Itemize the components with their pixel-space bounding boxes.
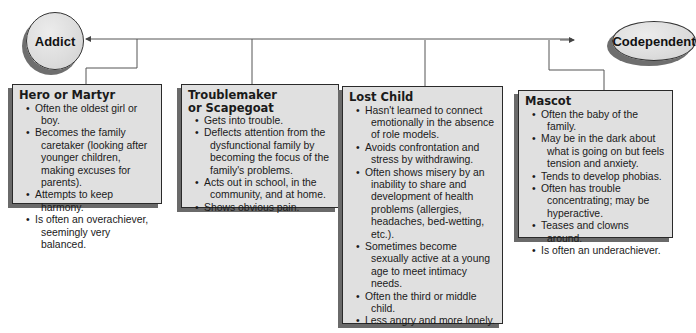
trait-item: Avoids confrontation and stress by withd…: [349, 142, 496, 167]
role-traits: Gets into trouble. Deflects attention fr…: [188, 115, 332, 214]
trait-item: Sometimes become sexually active at a yo…: [349, 241, 496, 291]
trait-item: Is often an underachiever.: [525, 245, 666, 257]
trait-item: Less angry and more lonely.: [349, 315, 496, 327]
role-title: Troublemaker or Scapegoat: [188, 89, 288, 114]
trait-item: Often the baby of the family.: [525, 109, 666, 134]
role-traits: Hasn't learned to connect emotionally in…: [349, 105, 496, 328]
trait-item: Attempts to keep harmony.: [19, 189, 155, 214]
trait-item: Deflects attention from the dysfunctiona…: [188, 127, 332, 177]
trait-item: Teases and clowns around.: [525, 220, 666, 245]
trait-item: Tends to develop phobias.: [525, 171, 666, 183]
trait-item: Hasn't learned to connect emotionally in…: [349, 105, 496, 142]
role-traits: Often the baby of the family. May be in …: [525, 109, 666, 258]
trait-item: May be in the dark about what is going o…: [525, 133, 666, 170]
role-box-hero: Hero or Martyr Often the oldest girl or …: [12, 84, 162, 204]
addict-node: Addict: [26, 12, 84, 70]
codependent-label: Codependent: [612, 34, 695, 49]
role-title: Mascot: [525, 95, 666, 108]
trait-item: Acts out in school, in the community, an…: [188, 177, 332, 202]
trait-item: Often the third or middle child.: [349, 291, 496, 316]
trait-item: Often has trouble concentrating; may be …: [525, 183, 666, 220]
role-box-lost-child: Lost Child Hasn't learned to connect emo…: [342, 86, 503, 324]
role-traits: Often the oldest girl or boy. Becomes th…: [19, 103, 155, 252]
trait-item: Becomes the family caretaker (looking af…: [19, 127, 155, 189]
role-box-mascot: Mascot Often the baby of the family. May…: [518, 90, 673, 238]
trait-item: Is often an overachiever, seemingly very…: [19, 214, 155, 251]
addict-label: Addict: [35, 34, 75, 49]
codependent-node: Codependent: [612, 21, 696, 61]
role-title: Lost Child: [349, 91, 496, 104]
trait-item: Often the oldest girl or boy.: [19, 103, 155, 128]
trait-item: Often shows misery by an inability to sh…: [349, 167, 496, 241]
trait-item: Gets into trouble.: [188, 115, 332, 127]
trait-item: Shows obvious pain.: [188, 202, 332, 214]
role-box-troublemaker: Troublemaker or Scapegoat Gets into trou…: [181, 84, 339, 208]
role-title: Hero or Martyr: [19, 89, 155, 102]
